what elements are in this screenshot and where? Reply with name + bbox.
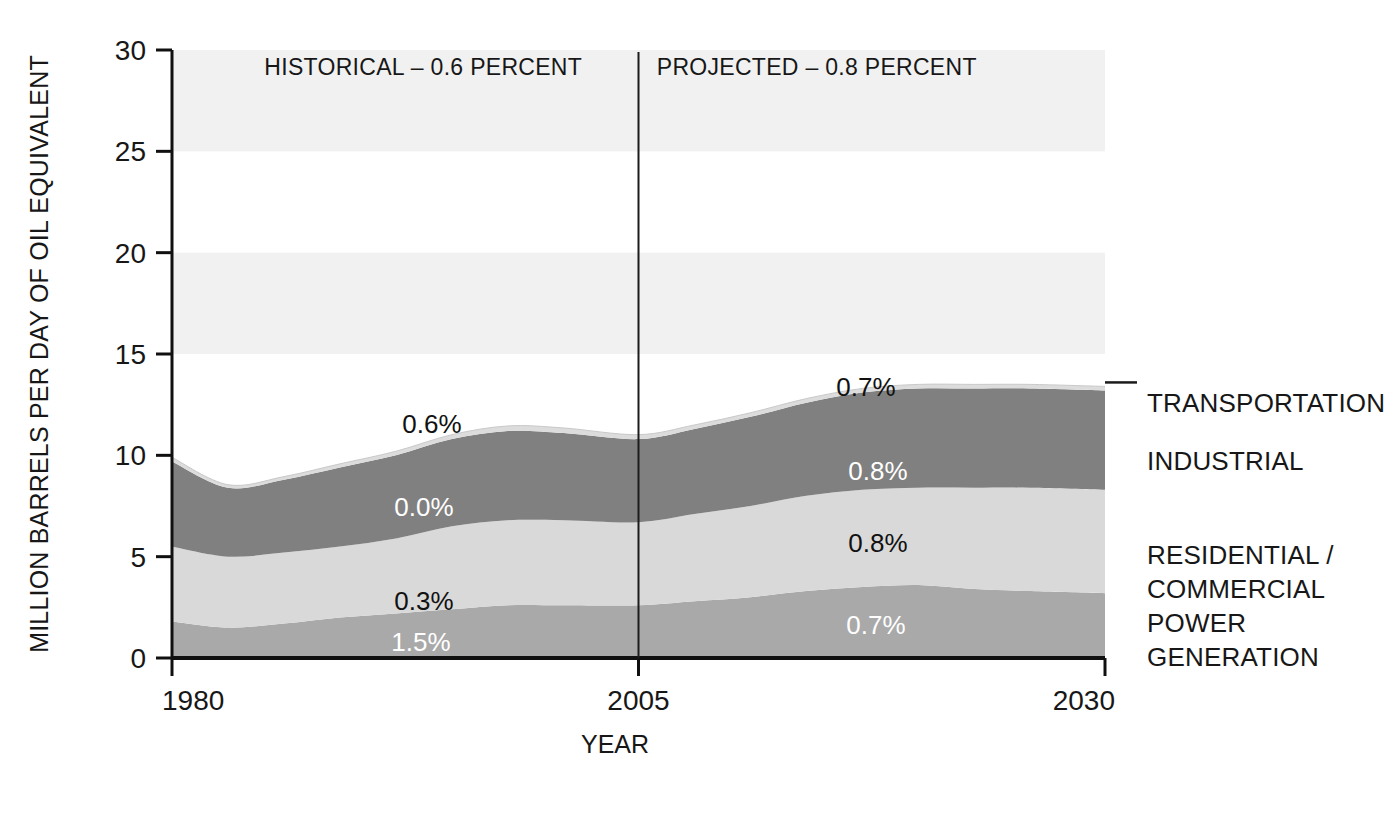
growth-label-historical-transportation: 0.6% [402,409,461,439]
growth-label-projected-industrial: 0.8% [848,456,907,486]
y-tick-label-15: 15 [115,339,146,370]
growth-label-projected-residential-commercial: 0.8% [848,528,907,558]
y-tick-label-25: 25 [115,136,146,167]
y-tick-label-10: 10 [115,440,146,471]
growth-label-historical-residential-commercial: 0.3% [394,586,453,616]
y-axis-ticks: 302520151050 [115,35,172,674]
growth-label-projected-power-generation: 0.7% [846,610,905,640]
y-tick-label-20: 20 [115,238,146,269]
legend-label-power-line2: GENERATION [1147,642,1319,672]
x-axis-ticks: 198020052030 [162,658,1115,716]
legend-label-industrial: INDUSTRIAL [1147,446,1304,476]
x-tick-label-2005: 2005 [607,685,669,716]
stacked-area-chart: 302520151050 198020052030 HISTORICAL – 0… [0,0,1387,818]
legend-label-residential: RESIDENTIAL / [1147,540,1334,570]
growth-label-projected-transportation: 0.7% [836,372,895,402]
y-tick-label-0: 0 [130,643,146,674]
x-axis-title: YEAR [581,730,649,758]
y-tick-label-30: 30 [115,35,146,66]
legend: TRANSPORTATIONINDUSTRIALRESIDENTIAL /COM… [1147,388,1385,672]
y-tick-label-5: 5 [130,542,146,573]
x-tick-label-1980: 1980 [162,685,224,716]
historical-period-label: HISTORICAL – 0.6 PERCENT [264,54,582,80]
growth-label-historical-industrial: 0.0% [394,492,453,522]
y-axis-title: MILLION BARRELS PER DAY OF OIL EQUIVALEN… [25,55,53,653]
chart-figure: 302520151050 198020052030 HISTORICAL – 0… [0,0,1387,818]
projected-period-label: PROJECTED – 0.8 PERCENT [657,54,977,80]
growth-label-historical-power-generation: 1.5% [391,627,450,657]
legend-label-transportation: TRANSPORTATION [1147,388,1385,418]
legend-label-residential-line2: COMMERCIAL [1147,574,1325,604]
x-tick-label-2030: 2030 [1053,685,1115,716]
legend-label-power: POWER [1147,608,1246,638]
